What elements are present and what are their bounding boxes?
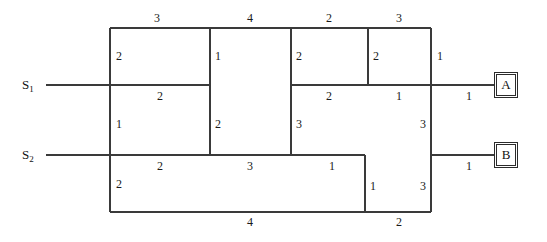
edge-capacity-label: 1 — [215, 50, 221, 62]
diagram-canvas: S1 S2 A B 34232122122111233231121342 — [0, 0, 547, 242]
diagram-lines — [0, 0, 547, 242]
edge-capacity-label: 1 — [466, 90, 472, 102]
terminal-box-a[interactable]: A — [494, 72, 518, 98]
edge-capacity-label: 3 — [396, 12, 402, 24]
source-label-s1: S1 — [22, 78, 34, 94]
edge-capacity-label: 1 — [329, 160, 335, 172]
edge-capacity-label: 2 — [396, 216, 402, 228]
edge-capacity-label: 3 — [154, 12, 160, 24]
edge-capacity-label: 1 — [116, 118, 122, 130]
terminal-b-label: B — [502, 147, 511, 163]
edge-capacity-label: 2 — [215, 118, 221, 130]
edge-capacity-label: 3 — [420, 180, 426, 192]
edge-capacity-label: 2 — [326, 12, 332, 24]
edge-capacity-label: 1 — [396, 90, 402, 102]
edge-capacity-label: 3 — [296, 118, 302, 130]
edge-capacity-label: 2 — [326, 90, 332, 102]
edge-capacity-label: 1 — [437, 50, 443, 62]
source-label-s2: S2 — [22, 148, 34, 164]
edge-capacity-label: 3 — [420, 118, 426, 130]
terminal-a-label: A — [501, 77, 510, 93]
edge-capacity-label: 2 — [157, 90, 163, 102]
edge-capacity-label: 2 — [157, 160, 163, 172]
edge-capacity-label: 2 — [116, 50, 122, 62]
edge-capacity-label: 3 — [247, 160, 253, 172]
edge-capacity-label: 4 — [247, 216, 253, 228]
edge-capacity-label: 1 — [370, 180, 376, 192]
edge-capacity-label: 1 — [466, 160, 472, 172]
terminal-box-b[interactable]: B — [494, 142, 518, 168]
edge-capacity-label: 4 — [247, 12, 253, 24]
edge-capacity-label: 2 — [116, 178, 122, 190]
edge-capacity-label: 2 — [296, 50, 302, 62]
edge-capacity-label: 2 — [373, 50, 379, 62]
